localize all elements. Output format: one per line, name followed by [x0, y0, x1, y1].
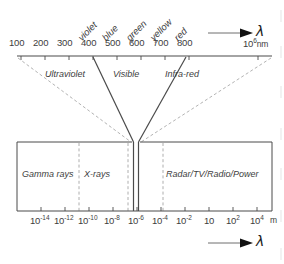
band-label-ultraviolet: Ultraviolet	[45, 70, 85, 79]
exponent: -4	[162, 214, 168, 221]
mantissa: 10	[128, 215, 138, 226]
band-label-radar-tv-radio-power: Radar/TV/Radio/Power	[166, 170, 259, 179]
band-label-visible: Visible	[113, 70, 139, 79]
bottom-tick-label-8: 102	[226, 215, 240, 226]
top-lambda-symbol: λ	[256, 24, 264, 38]
mantissa: 10	[54, 215, 64, 226]
top-tick-label-200: 200	[33, 38, 48, 48]
bottom-lambda-symbol: λ	[256, 234, 264, 248]
bottom-tick-label-7: 10	[204, 215, 214, 226]
bottom-tick-label-2: 10-10	[78, 215, 98, 226]
bottom-axis-unit: m	[270, 216, 277, 225]
exponent: -14	[40, 214, 49, 221]
exponent: -12	[64, 214, 73, 221]
bottom-tick-label-0: 10-14	[30, 215, 50, 226]
bottom-tick-label-3: 10-8	[104, 215, 120, 226]
top-tick-label-100: 100	[9, 38, 24, 48]
top-tick-label-300: 300	[57, 38, 72, 48]
band-label-infrared: Infra-red	[165, 70, 199, 79]
mantissa: 10	[176, 215, 186, 226]
top-axis-ticks	[21, 56, 258, 60]
bottom-lambda-arrow	[208, 239, 253, 248]
bottom-tick-label-1: 10-12	[54, 215, 74, 226]
exponent: -6	[138, 214, 144, 221]
top-lambda-arrow	[208, 29, 253, 38]
bottom-tick-label-9: 104	[250, 215, 264, 226]
exponent: -10	[88, 214, 97, 221]
bottom-axis-ticks	[41, 207, 257, 211]
mantissa: 10	[152, 215, 162, 226]
top-axis-end-label: 106nm	[243, 38, 268, 49]
exponent: 4	[260, 214, 264, 221]
mantissa: 10	[226, 215, 236, 226]
exponent: -8	[114, 214, 120, 221]
bottom-tick-label-4: 10-6	[128, 215, 144, 226]
mantissa: 10	[78, 215, 88, 226]
mantissa: 10	[250, 215, 260, 226]
top-axis-end-mantissa: 10	[243, 38, 253, 49]
exponent: -2	[186, 214, 192, 221]
mantissa: 10	[30, 215, 40, 226]
mantissa: 10	[204, 215, 214, 226]
band-label-gamma-rays: Gamma rays	[22, 170, 74, 179]
projection-line-right	[141, 58, 271, 142]
electromagnetic-spectrum-figure: 100 200 300 400 500 600 700 800 106nm λ …	[0, 0, 284, 264]
exponent: 2	[236, 214, 240, 221]
bottom-tick-label-6: 10-2	[176, 215, 192, 226]
top-axis-unit: nm	[257, 39, 268, 49]
bottom-tick-label-5: 10-4	[152, 215, 168, 226]
mantissa: 10	[104, 215, 114, 226]
band-label-x-rays: X-rays	[84, 170, 110, 179]
